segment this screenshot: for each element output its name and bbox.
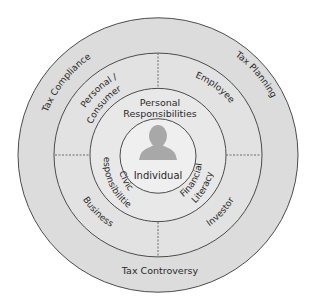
outer-label-tax-controversy: Tax Controversy [121, 265, 199, 276]
inner-label-personal: Personal [140, 97, 180, 108]
inner-label-responsibilities: Responsibilities [123, 108, 197, 119]
core-label: Individual [134, 170, 183, 181]
concentric-diagram: Individual Personal Responsibilities Civ… [0, 0, 312, 303]
